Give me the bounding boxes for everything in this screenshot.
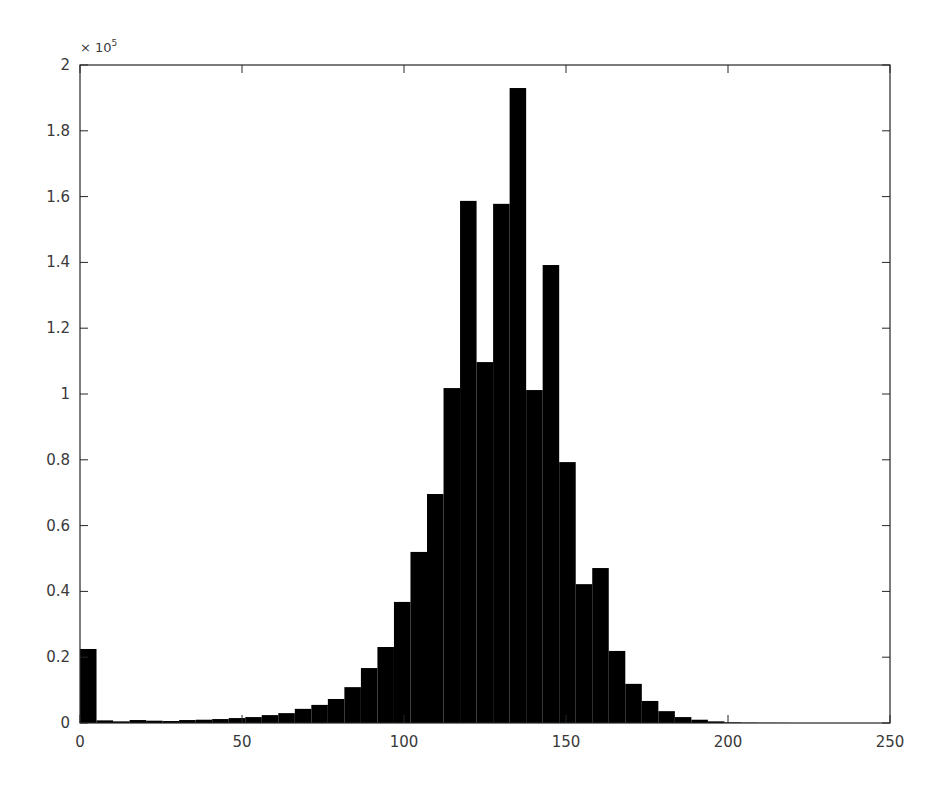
y-tick-label: 1.6 <box>46 188 70 206</box>
histogram-bar <box>625 684 642 723</box>
histogram-bar <box>377 647 394 723</box>
y-tick-label: 0.2 <box>46 648 70 666</box>
histogram-bar <box>328 699 345 723</box>
histogram-bar <box>361 668 378 723</box>
x-tick-label: 0 <box>75 733 85 751</box>
histogram-bar <box>311 705 328 723</box>
histogram-bar <box>410 552 427 723</box>
histogram-bar <box>262 715 279 723</box>
y-tick-label: 1.8 <box>46 122 70 140</box>
histogram-bar <box>427 494 444 723</box>
x-tick-label: 150 <box>552 733 581 751</box>
histogram-figure: 050100150200250 00.20.40.60.811.21.41.61… <box>0 0 944 794</box>
y-tick-label: 0.6 <box>46 517 70 535</box>
histogram-chart: 050100150200250 00.20.40.60.811.21.41.61… <box>0 0 944 794</box>
histogram-bar <box>658 711 675 723</box>
histogram-bar <box>460 201 477 723</box>
x-tick-label: 50 <box>232 733 251 751</box>
y-tick-label: 0 <box>60 714 70 732</box>
y-tick-label: 1.2 <box>46 319 70 337</box>
x-tick-label: 250 <box>876 733 905 751</box>
x-tick-label: 200 <box>714 733 743 751</box>
x-tick-label: 100 <box>390 733 419 751</box>
histogram-bar <box>609 651 626 723</box>
histogram-bar <box>526 390 543 723</box>
histogram-bar <box>477 362 494 723</box>
histogram-bar <box>543 265 560 723</box>
histogram-bar <box>510 88 527 723</box>
histogram-bar <box>493 204 510 723</box>
y-tick-label: 1 <box>60 385 70 403</box>
histogram-bar <box>245 717 262 723</box>
y-tick-label: 0.4 <box>46 582 70 600</box>
y-axis-exponent-label: × 105 <box>80 38 117 55</box>
histogram-bars <box>80 88 791 723</box>
histogram-bar <box>642 701 659 723</box>
histogram-bar <box>80 649 97 723</box>
histogram-bar <box>295 709 312 723</box>
y-tick-label: 0.8 <box>46 451 70 469</box>
histogram-bar <box>675 717 692 723</box>
y-tick-label: 1.4 <box>46 253 70 271</box>
y-tick-label: 2 <box>60 56 70 74</box>
histogram-bar <box>559 462 576 723</box>
histogram-bar <box>592 568 609 723</box>
histogram-bar <box>229 718 246 723</box>
histogram-bar <box>344 687 361 723</box>
histogram-bar <box>278 713 295 723</box>
histogram-bar <box>576 584 593 723</box>
histogram-bar <box>444 388 461 723</box>
histogram-bar <box>394 602 411 723</box>
